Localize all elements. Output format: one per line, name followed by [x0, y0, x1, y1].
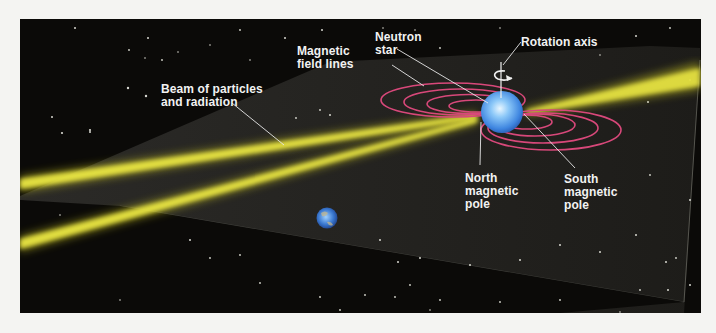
earth: [317, 208, 338, 229]
label-rotation-axis: Rotation axis: [521, 36, 598, 49]
label-north-magnetic-pole: North magnetic pole: [465, 172, 518, 211]
pulsar-illustration: [0, 0, 716, 333]
label-neutron-star: Neutron star: [375, 31, 422, 57]
label-south-magnetic-pole: South magnetic pole: [564, 173, 617, 212]
pulsar-figure: Beam of particles and radiation Magnetic…: [0, 0, 716, 333]
neutron-star: [481, 91, 523, 133]
label-beam: Beam of particles and radiation: [161, 83, 263, 109]
label-magnetic-field-lines: Magnetic field lines: [297, 45, 353, 71]
